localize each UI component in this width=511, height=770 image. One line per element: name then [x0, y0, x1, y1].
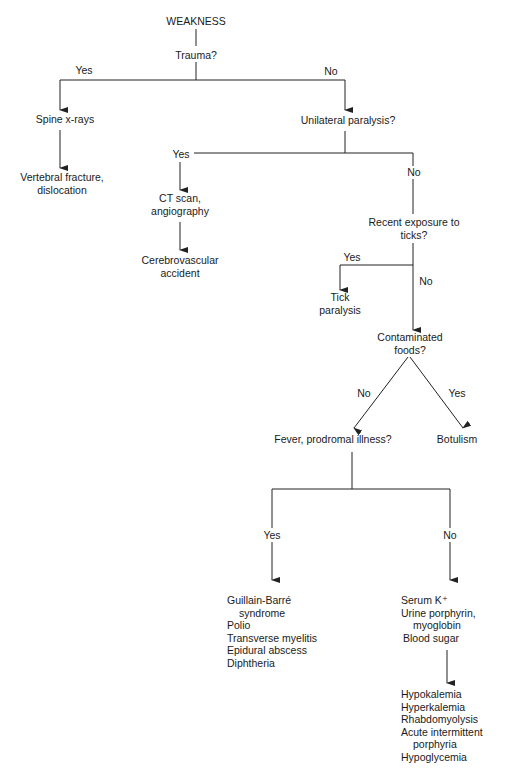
- edge-label-contaminated-no: No: [357, 387, 370, 400]
- list-item: Rhabdomyolysis: [401, 713, 483, 726]
- node-text-line: foods?: [377, 344, 442, 357]
- node-botulism: Botulism: [437, 433, 477, 446]
- list-item: myoglobin: [401, 619, 476, 632]
- node-unilateral-paralysis: Unilateral paralysis?: [301, 114, 396, 127]
- list-item: Blood sugar: [401, 632, 476, 645]
- edge-label-trauma-no: No: [324, 65, 337, 78]
- list-item: Hyperkalemia: [401, 701, 483, 714]
- list-item: Guillain-Barré: [227, 594, 317, 607]
- node-text-line: ticks?: [368, 229, 459, 242]
- list-fever-yes-diagnoses: Guillain-Barré syndrome Polio Transverse…: [227, 594, 317, 669]
- node-text-line: dislocation: [20, 184, 103, 197]
- node-vertebral-fracture: Vertebral fracture, dislocation: [20, 171, 103, 196]
- list-final-diagnoses: Hypokalemia Hyperkalemia Rhabdomyolysis …: [401, 688, 483, 763]
- list-item: Acute intermittent: [401, 726, 483, 739]
- node-tick-paralysis: Tick paralysis: [319, 291, 360, 316]
- node-text-line: angiography: [151, 205, 209, 218]
- list-item: Transverse myelitis: [227, 632, 317, 645]
- node-text-line: Contaminated: [377, 331, 442, 344]
- list-item: Hypokalemia: [401, 688, 483, 701]
- list-item: Epidural abscess: [227, 644, 317, 657]
- edge-label-contaminated-yes: Yes: [448, 387, 465, 400]
- list-item: syndrome: [227, 607, 317, 620]
- edge-label-ticks-yes: Yes: [343, 251, 360, 264]
- edge-label-ticks-no: No: [419, 275, 432, 288]
- node-text-line: Recent exposure to: [368, 216, 459, 229]
- node-text-line: Tick: [319, 291, 360, 304]
- edge-label-fever-no: No: [443, 529, 456, 542]
- edge-label-fever-yes: Yes: [263, 529, 280, 542]
- node-contaminated-foods: Contaminated foods?: [377, 331, 442, 356]
- edge-label-unilateral-yes: Yes: [172, 148, 189, 161]
- node-cerebrovascular-accident: Cerebrovascular accident: [141, 254, 218, 279]
- list-item: Polio: [227, 619, 317, 632]
- node-text-line: Vertebral fracture,: [20, 171, 103, 184]
- node-text-line: paralysis: [319, 304, 360, 317]
- node-weakness: WEAKNESS: [166, 15, 226, 28]
- list-item: Hypoglycemia: [401, 751, 483, 764]
- node-spine-xrays: Spine x-rays: [36, 113, 94, 126]
- node-trauma: Trauma?: [175, 49, 217, 62]
- node-text-line: accident: [141, 267, 218, 280]
- edge-label-trauma-yes: Yes: [75, 64, 92, 77]
- node-tick-exposure: Recent exposure to ticks?: [368, 216, 459, 241]
- list-fever-no-tests: Serum K⁺ Urine porphyrin, myoglobin Bloo…: [401, 594, 476, 644]
- edge-label-unilateral-no: No: [407, 166, 420, 179]
- list-item: Urine porphyrin,: [401, 607, 476, 620]
- list-item: Diphtheria: [227, 657, 317, 670]
- list-item: porphyria: [401, 738, 483, 751]
- list-item: Serum K⁺: [401, 594, 476, 607]
- node-ct-scan: CT scan, angiography: [151, 192, 209, 217]
- node-text-line: Cerebrovascular: [141, 254, 218, 267]
- node-text-line: CT scan,: [151, 192, 209, 205]
- node-fever-prodromal: Fever, prodromal illness?: [274, 433, 391, 446]
